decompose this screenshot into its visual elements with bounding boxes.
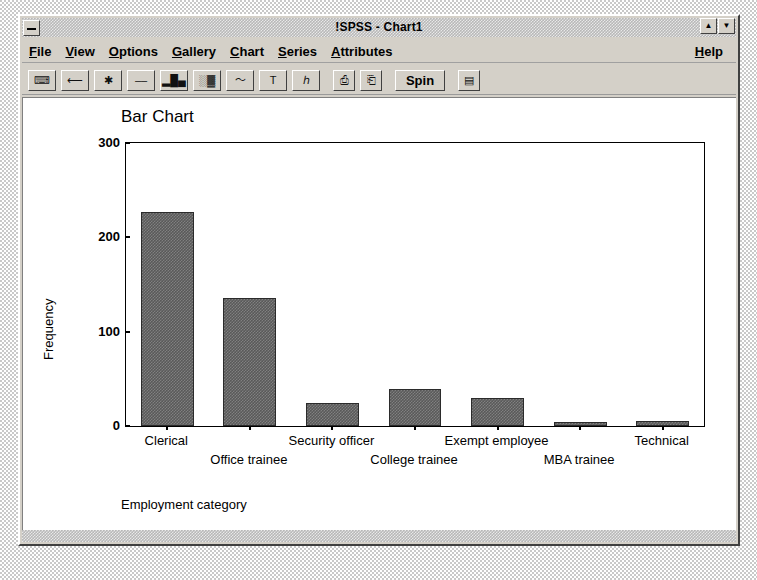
menu-view[interactable]: View xyxy=(58,43,101,60)
bar[interactable] xyxy=(306,403,359,426)
chart-canvas[interactable]: Bar Chart 0100200300 ClericalOffice trai… xyxy=(22,97,736,541)
menu-options-label: ptions xyxy=(119,44,158,59)
x-tick-label: Exempt employee xyxy=(445,433,549,448)
toolbar: ⌨ ⟵ ✱ –– ▂█▄ ░▓ 〜 T ℎ ⎙ ⎗ Spin ▤ xyxy=(22,66,736,95)
stacked-chart-icon-button[interactable]: ░▓ xyxy=(193,70,221,91)
y-tick-label: 300 xyxy=(98,135,120,150)
x-tick-mark xyxy=(579,426,581,430)
stacked-chart-icon: ░▓ xyxy=(199,75,215,86)
menu-file[interactable]: File xyxy=(22,43,58,60)
x-tick-label: Technical xyxy=(635,433,689,448)
y-tick-mark xyxy=(126,236,130,238)
copy-icon-button[interactable]: ⎙ xyxy=(333,70,355,91)
x-tick-mark xyxy=(497,426,499,430)
bar-chart-icon-button[interactable]: ▂█▄ xyxy=(160,70,188,91)
y-axis-title: Frequency xyxy=(41,299,56,360)
y-tick-mark xyxy=(126,425,130,427)
menu-options[interactable]: Options xyxy=(102,43,165,60)
paste-icon: ⎗ xyxy=(367,75,376,86)
x-tick-mark xyxy=(331,426,333,430)
data-sheet-icon: ▤ xyxy=(464,75,474,86)
menu-attributes[interactable]: Attributes xyxy=(324,43,399,60)
menu-help[interactable]: Help xyxy=(688,43,730,60)
maximize-icon: ▼ xyxy=(723,22,731,30)
x-tick-label: College trainee xyxy=(370,452,457,467)
asterisk-icon: ✱ xyxy=(104,75,113,86)
menu-series-label: eries xyxy=(287,44,317,59)
x-tick-mark xyxy=(414,426,416,430)
plot-area: 0100200300 xyxy=(125,142,705,427)
x-tick-mark xyxy=(249,426,251,430)
status-strip xyxy=(22,530,736,542)
restore-button[interactable]: ▲ xyxy=(700,18,717,34)
y-tick-label: 200 xyxy=(98,229,120,244)
menu-attributes-label: ttributes xyxy=(340,44,392,59)
y-tick-mark xyxy=(126,142,130,144)
menu-series[interactable]: Series xyxy=(271,43,324,60)
x-tick-label: Office trainee xyxy=(210,452,287,467)
y-tick-label: 0 xyxy=(113,418,120,433)
maximize-button[interactable]: ▼ xyxy=(718,18,735,34)
x-tick-label: Security officer xyxy=(289,433,375,448)
three-d-axis-icon: ℎ xyxy=(303,75,310,86)
menu-help-label: elp xyxy=(704,44,723,59)
bar[interactable] xyxy=(471,398,524,426)
arrow-left-icon-button[interactable]: ⟵ xyxy=(61,70,89,91)
text-tool-icon-button[interactable]: T xyxy=(259,70,287,91)
spss-chart-window: !SPSS - Chart1 ▲ ▼ File View Options Gal… xyxy=(18,14,740,546)
spin-button[interactable]: Spin xyxy=(395,70,445,91)
line-chart-icon: 〜 xyxy=(235,75,246,86)
three-d-axis-icon-button[interactable]: ℎ xyxy=(292,70,320,91)
bar[interactable] xyxy=(389,389,442,426)
line-chart-icon-button[interactable]: 〜 xyxy=(226,70,254,91)
bar-chart-icon: ▂█▄ xyxy=(162,75,186,86)
minimize-icon xyxy=(27,28,36,30)
bar[interactable] xyxy=(223,298,276,426)
keyboard-icon-button[interactable]: ⌨ xyxy=(28,70,56,91)
x-tick-label: Clerical xyxy=(145,433,188,448)
x-tick-mark xyxy=(662,426,664,430)
x-axis-title: Employment category xyxy=(121,497,247,512)
chart-title: Bar Chart xyxy=(121,107,194,127)
menu-chart[interactable]: Chart xyxy=(223,43,271,60)
menu-file-label: ile xyxy=(37,44,51,59)
asterisk-icon-button[interactable]: ✱ xyxy=(94,70,122,91)
x-tick-mark xyxy=(166,426,168,430)
window-title: !SPSS - Chart1 xyxy=(22,18,736,37)
y-tick-label: 100 xyxy=(98,324,120,339)
keyboard-icon: ⌨ xyxy=(34,75,50,86)
menu-chart-label: hart xyxy=(239,44,264,59)
menu-gallery[interactable]: Gallery xyxy=(165,43,223,60)
menu-bar: File View Options Gallery Chart Series A… xyxy=(22,40,736,63)
menu-gallery-label: allery xyxy=(182,44,216,59)
x-tick-label: MBA trainee xyxy=(544,452,615,467)
data-sheet-icon-button[interactable]: ▤ xyxy=(458,70,480,91)
copy-icon: ⎙ xyxy=(340,75,349,86)
dashed-line-icon: –– xyxy=(135,75,147,86)
system-menu-button[interactable] xyxy=(23,20,40,36)
text-tool-icon: T xyxy=(270,75,277,86)
dashed-line-icon-button[interactable]: –– xyxy=(127,70,155,91)
restore-icon: ▲ xyxy=(705,22,713,30)
arrow-left-icon: ⟵ xyxy=(67,75,83,86)
bar[interactable] xyxy=(141,212,194,426)
title-bar[interactable]: !SPSS - Chart1 ▲ ▼ xyxy=(22,18,736,37)
paste-icon-button[interactable]: ⎗ xyxy=(360,70,382,91)
menu-view-label: iew xyxy=(74,44,95,59)
y-tick-mark xyxy=(126,331,130,333)
